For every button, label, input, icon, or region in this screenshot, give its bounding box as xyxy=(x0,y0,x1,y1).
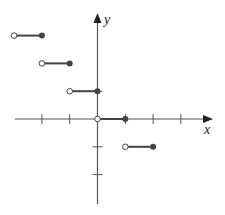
closed-endpoint-icon xyxy=(39,33,45,39)
axes xyxy=(15,13,213,204)
step-segments xyxy=(11,33,156,150)
open-endpoint-icon xyxy=(95,116,101,122)
closed-endpoint-icon xyxy=(150,144,156,150)
step-segment xyxy=(95,116,129,122)
y-axis-arrow-icon xyxy=(94,13,102,23)
open-endpoint-icon xyxy=(39,61,45,67)
step-segment xyxy=(39,60,73,66)
step-segment xyxy=(67,88,101,94)
ticks xyxy=(42,91,181,174)
step-function-graph: x y xyxy=(0,0,225,215)
open-endpoint-icon xyxy=(123,144,129,150)
step-segment xyxy=(11,33,45,39)
closed-endpoint-icon xyxy=(122,116,128,122)
x-axis-label: x xyxy=(203,122,211,137)
step-segment xyxy=(123,144,157,150)
open-endpoint-icon xyxy=(67,88,73,94)
closed-endpoint-icon xyxy=(67,60,73,66)
y-axis-label: y xyxy=(102,12,111,27)
open-endpoint-icon xyxy=(11,33,17,39)
closed-endpoint-icon xyxy=(95,88,101,94)
